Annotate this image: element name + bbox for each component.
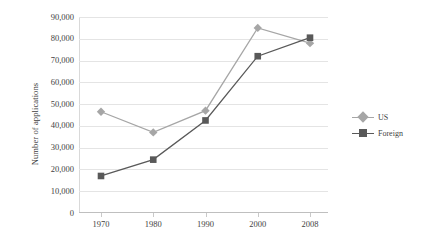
y-axis-tick-labels: 010,00020,00030,00040,00050,00060,00070,… [4,17,74,213]
y-axis-tick-label: 20,000 [4,164,74,174]
y-axis-tick-label: 80,000 [4,33,74,43]
y-axis-tick-label: 60,000 [4,77,74,87]
x-axis-tick-label: 1990 [176,219,236,229]
chart-legend: USForeign [352,110,422,142]
x-axis-tick-label: 2008 [280,219,340,229]
x-axis-tick [258,213,259,217]
legend-marker-diamond-icon [357,111,368,122]
x-axis-tick-labels: 19701980199020002008 [79,219,328,233]
data-point-us-1990 [201,106,209,114]
data-point-foreign-1980 [150,156,157,163]
plot-area [79,17,328,213]
x-axis-tick-label: 1980 [123,219,183,229]
legend-key-diamond-icon [352,111,374,123]
line-chart: Number of applications 010,00020,00030,0… [0,0,427,248]
data-point-foreign-1970 [98,173,105,180]
data-point-us-2000 [254,24,262,32]
y-axis-tick-label: 40,000 [4,120,74,130]
data-point-foreign-2000 [254,53,261,60]
y-axis-tick-label: 10,000 [4,186,74,196]
y-axis-tick-label: 0 [4,208,74,218]
y-axis-tick-label: 90,000 [4,12,74,22]
legend-marker-square-icon [359,129,367,137]
series-plot [79,17,328,213]
y-axis-tick-label: 70,000 [4,55,74,65]
legend-key-square-icon [352,127,374,139]
series-line-us [101,28,310,133]
x-axis-tick [206,213,207,217]
legend-item-us[interactable]: US [352,110,422,124]
legend-label: Foreign [378,129,403,138]
data-point-foreign-2008 [307,34,314,41]
data-point-us-1970 [97,108,105,116]
data-point-foreign-1990 [202,117,209,124]
x-axis-tick [153,213,154,217]
x-axis-tick [310,213,311,217]
x-axis-tick [101,213,102,217]
y-axis-tick-label: 30,000 [4,142,74,152]
x-axis-tick-label: 1970 [71,219,131,229]
data-point-us-1980 [149,128,157,136]
legend-label: US [378,113,388,122]
legend-item-foreign[interactable]: Foreign [352,126,422,140]
y-axis-tick-label: 50,000 [4,99,74,109]
x-axis-tick-label: 2000 [228,219,288,229]
